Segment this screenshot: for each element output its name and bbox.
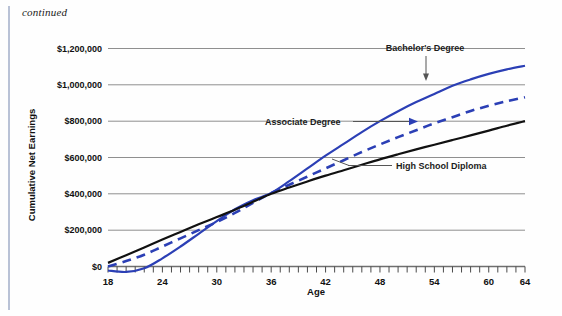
y-gridlines: [108, 49, 525, 231]
x-tick-label: 64: [520, 276, 531, 287]
x-tick-label: 24: [157, 276, 168, 287]
annotation-label: Bachelor's Degree: [386, 43, 465, 53]
x-tick-label: 60: [483, 276, 494, 287]
x-axis-title: Age: [307, 286, 325, 297]
y-tick-labels: $1,200,000 $1,000,000 $800,000 $600,000 …: [57, 44, 102, 272]
y-axis-title: Cumulative Net Earnings: [26, 109, 37, 221]
line-chart: Cumulative Net Earnings $1,200,000 $1,00…: [0, 0, 562, 316]
y-tick-label: $600,000: [64, 153, 102, 163]
y-tick-label: $1,200,000: [57, 44, 102, 54]
y-tick-label: $400,000: [64, 189, 102, 199]
annotation-label: High School Diploma: [396, 161, 487, 171]
x-tick-label: 30: [211, 276, 222, 287]
x-tick-label: 42: [320, 276, 331, 287]
annotation-associate: Associate Degree: [265, 117, 418, 127]
annotation-label: Associate Degree: [265, 117, 341, 127]
x-tick-label: 48: [375, 276, 386, 287]
y-tick-label: $200,000: [64, 225, 102, 235]
arrow-down-icon: [423, 74, 429, 82]
figure-container: continued Cumulative Net Earnings $1,200…: [0, 0, 562, 316]
x-tick-label: 36: [266, 276, 277, 287]
x-tick-label: 54: [429, 276, 440, 287]
y-tick-label: $0: [92, 262, 102, 272]
x-tick-label: 18: [103, 276, 114, 287]
annotation-bachelors: Bachelor's Degree: [386, 43, 465, 81]
y-tick-label: $1,000,000: [57, 80, 102, 90]
x-axis-tick-labels: 182430364248546064: [103, 276, 531, 287]
y-tick-label: $800,000: [64, 116, 102, 126]
arrow-right-icon: [409, 118, 418, 125]
x-axis-ticks: [108, 267, 525, 273]
annotation-highschool: High School Diploma: [332, 159, 487, 171]
